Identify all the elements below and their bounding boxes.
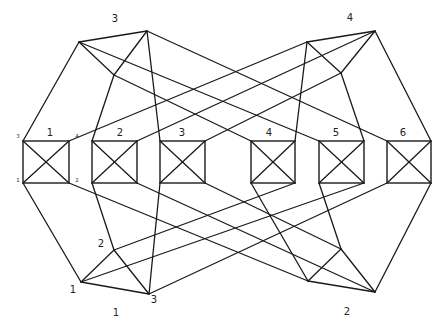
- group-label-top-left: 3: [112, 13, 118, 24]
- box-label-2: 2: [117, 127, 123, 138]
- group-label-top-right: 4: [347, 12, 353, 23]
- box-label-1: 1: [47, 127, 53, 138]
- group-label-bottom-left: 1: [113, 307, 119, 318]
- corner-label-br: 2: [75, 177, 79, 183]
- corner-label-bl: 1: [16, 177, 20, 183]
- graph-diagram: 1 2 3 4 5 6 3 4 1 2 3 4 1 2 1 2 3: [0, 0, 442, 328]
- box-label-4: 4: [266, 127, 272, 138]
- box-label-6: 6: [400, 127, 406, 138]
- group-label-bottom-right: 2: [344, 306, 350, 317]
- box-label-5: 5: [333, 127, 339, 138]
- node-label-3: 3: [151, 294, 157, 305]
- box-4: [251, 141, 295, 183]
- node-label-1: 1: [70, 284, 76, 295]
- box-6: [387, 141, 431, 183]
- box-label-3: 3: [179, 127, 185, 138]
- edges: [23, 31, 431, 294]
- boxes: [23, 141, 431, 183]
- box-2: [92, 141, 137, 183]
- box-5: [319, 141, 364, 183]
- box-1: [23, 141, 69, 183]
- corner-label-tl: 3: [16, 133, 20, 139]
- corner-label-tr: 4: [75, 133, 79, 139]
- box-3: [160, 141, 205, 183]
- node-label-2: 2: [98, 238, 104, 249]
